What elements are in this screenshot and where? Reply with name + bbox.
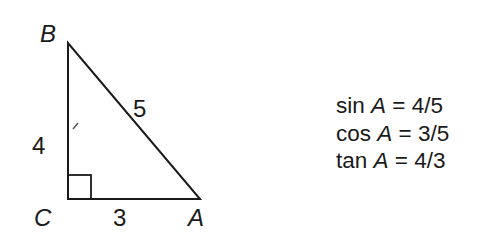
- fn-name: sin: [336, 93, 365, 118]
- fn-name: tan: [336, 148, 367, 173]
- vertex-label-c: C: [34, 204, 52, 231]
- vertex-label-a: A: [186, 204, 204, 231]
- right-angle-marker: [68, 175, 91, 199]
- fn-name: cos: [336, 121, 371, 146]
- trig-ratios: sin A = 4/5 cos A = 3/5 tan A = 4/3: [336, 92, 449, 175]
- equals-sign: =: [399, 121, 412, 146]
- equation-sin: sin A = 4/5: [336, 92, 449, 120]
- variable: A: [374, 148, 389, 173]
- ratio-value: 4/3: [414, 148, 445, 173]
- equals-sign: =: [395, 148, 408, 173]
- side-label-bc: 4: [32, 132, 45, 159]
- variable: A: [377, 121, 392, 146]
- variable: A: [371, 93, 386, 118]
- equation-tan: tan A = 4/3: [336, 147, 449, 175]
- ratio-value: 4/5: [412, 93, 443, 118]
- ratio-value: 3/5: [418, 121, 449, 146]
- vertex-label-b: B: [40, 20, 56, 47]
- equals-sign: =: [392, 93, 405, 118]
- equation-cos: cos A = 3/5: [336, 120, 449, 148]
- tick-mark: [73, 123, 78, 129]
- side-label-ca: 3: [113, 204, 126, 231]
- side-label-ab: 5: [133, 95, 146, 122]
